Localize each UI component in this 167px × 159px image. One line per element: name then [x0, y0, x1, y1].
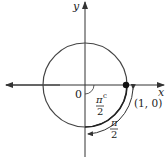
y-axis-label: y — [72, 0, 80, 13]
point-1-0 — [123, 82, 129, 88]
angle-label-denominator: 2 — [97, 106, 103, 117]
point-label: (1, 0) — [134, 97, 162, 109]
angle-label-superscript: c — [103, 92, 107, 100]
arc-label-denominator: 2 — [111, 129, 117, 140]
arc-label-numerator: π — [110, 117, 118, 128]
angle-arc — [85, 85, 94, 94]
origin-label: 0 — [75, 88, 82, 101]
unit-circle-diagram: y x 0 (1, 0) π c 2 π 2 — [0, 0, 167, 159]
angle-label-numerator: π — [95, 94, 103, 105]
